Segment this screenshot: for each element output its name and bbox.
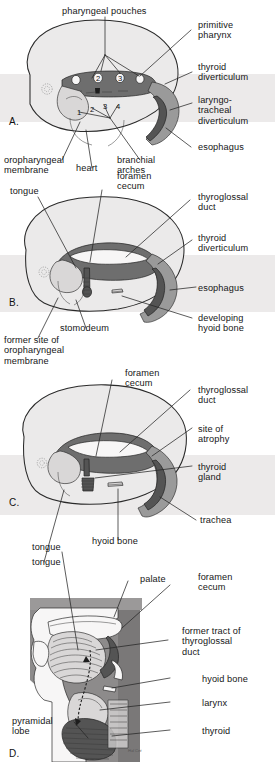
label-tongue-b: tongue — [10, 186, 39, 196]
svg-text:3: 3 — [103, 102, 107, 111]
label-palate: palate — [140, 574, 166, 584]
panel-b-marker: B. — [9, 297, 19, 308]
svg-text:2: 2 — [90, 105, 94, 114]
label-esophagus-b: esophagus — [198, 283, 244, 293]
label-thyroid-diverticulum-b: thyroid diverticulum — [198, 233, 248, 254]
panel-c-marker: C. — [9, 497, 20, 508]
label-laryngotracheal-diverticulum: laryngo- tracheal diverticulum — [198, 95, 248, 126]
label-foramen-cecum-d: foramen cecum — [198, 572, 232, 593]
label-former-site-oropharyngeal-membrane: former site of oropharyngeal membrane — [4, 335, 64, 366]
label-thyroglossal-duct-b: thyroglossal duct — [198, 192, 248, 213]
label-oropharyngeal-membrane: oropharyngeal membrane — [4, 155, 64, 176]
label-thyroglossal-duct-c: thyroglossal duct — [198, 385, 248, 406]
label-larynx: larynx — [202, 698, 227, 708]
artist-signature: Hal Cet — [128, 748, 141, 753]
label-developing-hyoid-bone: developing hyoid bone — [198, 313, 244, 334]
label-tongue-c: tongue — [32, 557, 61, 567]
panel-d-marker: D. — [9, 748, 20, 759]
label-thyroid-gland: thyroid gland — [198, 462, 226, 483]
label-esophagus-a: esophagus — [198, 142, 244, 152]
label-thyroid-d: thyroid — [202, 726, 230, 736]
label-former-tract-thyroglossal-duct: former tract of thyroglossal duct — [182, 626, 241, 657]
label-primitive-pharynx: primitive pharynx — [198, 20, 233, 41]
panel-c-artwork — [0, 380, 275, 562]
figure-thyroid-development: 1 2 3 4 2 3 — [0, 0, 275, 762]
label-thyroid-diverticulum-a: thyroid diverticulum — [198, 62, 248, 83]
label-site-of-atrophy: site of atrophy — [198, 424, 229, 445]
svg-text:2: 2 — [96, 74, 100, 83]
label-stomodeum: stomodeum — [60, 323, 109, 333]
label-pharyngeal-pouches: pharyngeal pouches — [62, 6, 147, 16]
label-heart: heart — [76, 163, 97, 173]
label-pyramidal-lobe: pyramidal lobe — [12, 716, 53, 737]
label-foramen-cecum-b: foramen cecum — [117, 171, 151, 192]
label-tongue-d: tongue — [32, 542, 61, 552]
svg-text:3: 3 — [118, 74, 122, 83]
label-hyoid-bone-d: hyoid bone — [202, 674, 248, 684]
label-trachea: trachea — [200, 515, 231, 525]
label-hyoid-bone-c: hyoid bone — [92, 536, 138, 546]
panel-a-marker: A. — [9, 116, 19, 127]
svg-text:4: 4 — [116, 102, 120, 111]
label-foramen-cecum-c: foramen cecum — [125, 368, 159, 389]
